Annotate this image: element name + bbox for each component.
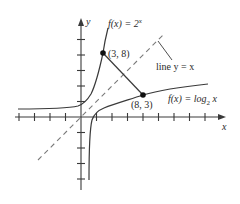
point-b-dot	[140, 92, 146, 98]
exp-function-label: f(x) = 2x	[108, 17, 142, 29]
line-label: line y = x	[156, 61, 194, 72]
x-axis-label: x	[221, 121, 227, 132]
point-a-dot	[100, 50, 106, 56]
exp-label-sup: x	[139, 17, 142, 25]
exp-label-text: f(x) = 2	[108, 18, 139, 29]
x-axis	[15, 113, 222, 121]
exponential-curve	[18, 28, 108, 109]
log-function-label: f(x) = log2 x	[168, 93, 217, 107]
point-a-label: (3, 8)	[108, 48, 130, 60]
log-label-var: x	[210, 93, 217, 104]
line-label-pointer	[158, 41, 172, 60]
y-axis-label: y	[85, 16, 91, 27]
point-b-label: (8, 3)	[131, 99, 153, 111]
x-axis-arrow-icon	[218, 114, 226, 120]
log-label-text: f(x) = log	[168, 93, 206, 104]
y-axis-arrow-icon	[78, 18, 84, 26]
